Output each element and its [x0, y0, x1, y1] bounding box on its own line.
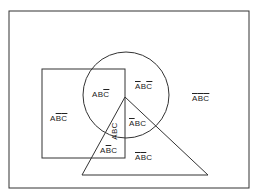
region-label-a-notb-notc: ABC	[50, 115, 67, 123]
region-label-nota-notb-c: ABC	[135, 154, 152, 162]
venn-diagram	[0, 0, 259, 196]
region-label-nota-notb-notc: ABC	[192, 95, 209, 103]
region-label-nota-b-c: ABC	[129, 120, 146, 128]
region-letter: C	[146, 153, 152, 162]
universe-frame	[9, 11, 249, 188]
region-letter: C	[110, 122, 119, 128]
region-label-nota-b-notc: ABC	[135, 83, 152, 91]
set-c-triangle	[82, 97, 208, 175]
region-letter: C	[146, 82, 152, 91]
region-label-a-b-c: ABC	[111, 122, 119, 139]
region-letter: C	[103, 90, 109, 99]
region-letter: C	[140, 119, 146, 128]
region-letter: C	[61, 114, 67, 123]
region-letter: C	[203, 94, 209, 103]
region-label-a-b-notc: ABC	[92, 91, 109, 99]
region-label-a-notb-c: ABC	[100, 147, 117, 155]
region-letter: A	[110, 134, 119, 140]
region-letter: C	[111, 146, 117, 155]
region-letter: B	[110, 128, 119, 134]
